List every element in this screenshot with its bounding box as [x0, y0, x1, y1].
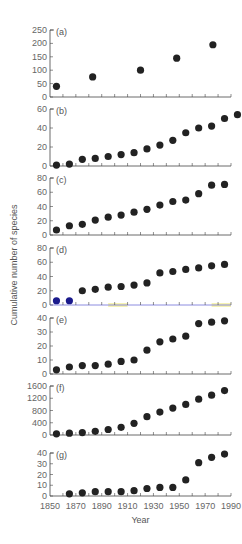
data-point [156, 142, 163, 149]
y-tick-label: 0 [42, 491, 47, 501]
y-tick-label: 0 [42, 300, 47, 310]
data-point [195, 190, 202, 197]
data-point [66, 297, 73, 304]
y-tick-label: 40 [37, 448, 47, 458]
data-point [79, 489, 86, 496]
y-tick-label: 1600 [27, 381, 47, 391]
data-point [130, 420, 137, 427]
data-point [143, 485, 150, 492]
data-point [182, 129, 189, 136]
data-point [182, 476, 189, 483]
y-tick-label: 20 [37, 341, 47, 351]
y-tick-label: 0 [42, 230, 47, 240]
y-tick-label: 800 [32, 406, 47, 416]
data-point [143, 413, 150, 420]
panel-label: (f) [56, 383, 65, 393]
data-point [156, 201, 163, 208]
data-point [221, 115, 228, 122]
data-point [105, 214, 112, 221]
data-point [53, 366, 60, 373]
data-point [118, 488, 125, 495]
y-tick-label: 50 [37, 79, 47, 89]
data-point [79, 221, 86, 228]
data-point [130, 487, 137, 494]
data-point [169, 137, 176, 144]
panel-label: (c) [56, 175, 67, 185]
x-tick-label: 1890 [92, 501, 112, 511]
data-point [79, 287, 86, 294]
data-point [105, 284, 112, 291]
y-tick-label: 20 [37, 286, 47, 296]
data-point [182, 401, 189, 408]
panel-label: (a) [56, 27, 67, 37]
y-tick-label: 60 [37, 187, 47, 197]
data-point [209, 41, 216, 48]
data-point [89, 73, 96, 80]
data-point [169, 335, 176, 342]
y-tick-label: 60 [37, 104, 47, 114]
data-point [143, 279, 150, 286]
data-point [118, 283, 125, 290]
panel-d: 020406080(d) [37, 243, 231, 310]
data-point [208, 454, 215, 461]
x-axis-title: Year [131, 515, 149, 525]
data-point [53, 430, 60, 437]
data-point [92, 428, 99, 435]
x-tick-label: 1990 [221, 501, 241, 511]
data-point [66, 222, 73, 229]
panel-a: 050100150200250(a) [32, 25, 231, 102]
data-point [118, 424, 125, 431]
y-tick-label: 250 [32, 25, 47, 35]
data-point [169, 268, 176, 275]
y-tick-label: 40 [37, 313, 47, 323]
data-point [79, 429, 86, 436]
data-point [92, 286, 99, 293]
data-point [234, 111, 241, 118]
data-point [92, 216, 99, 223]
y-axis-title: Cumulative number of species [9, 204, 19, 326]
data-point [195, 459, 202, 466]
data-point [208, 182, 215, 189]
data-point [53, 297, 60, 304]
y-tick-label: 80 [37, 243, 47, 253]
panel-c: 020406080(c) [37, 173, 231, 240]
data-point [208, 319, 215, 326]
data-point [169, 404, 176, 411]
y-tick-label: 10 [37, 355, 47, 365]
panel-b: 0204060(b) [37, 104, 241, 171]
data-point [208, 392, 215, 399]
data-point [221, 450, 228, 457]
data-point [173, 55, 180, 62]
data-point [118, 151, 125, 158]
y-tick-label: 20 [37, 470, 47, 480]
y-tick-label: 40 [37, 202, 47, 212]
data-point [143, 206, 150, 213]
data-point [221, 261, 228, 268]
panel-label: (g) [56, 450, 67, 460]
data-point [182, 333, 189, 340]
data-point [221, 317, 228, 324]
data-point [221, 181, 228, 188]
y-tick-label: 40 [37, 123, 47, 133]
data-point [182, 196, 189, 203]
data-point [105, 361, 112, 368]
data-point [143, 347, 150, 354]
data-point [66, 363, 73, 370]
panel-g: 010203040(g) [37, 448, 231, 501]
data-point [130, 356, 137, 363]
data-point [156, 484, 163, 491]
y-tick-label: 80 [37, 173, 47, 183]
panel-label: (e) [56, 315, 67, 325]
data-point [66, 490, 73, 497]
y-tick-label: 400 [32, 418, 47, 428]
data-point [130, 149, 137, 156]
data-point [156, 338, 163, 345]
species-accumulation-chart: 050100150200250(a)0204060(b)020406080(c)… [0, 0, 242, 544]
x-tick-label: 1930 [143, 501, 163, 511]
y-tick-label: 0 [42, 161, 47, 171]
data-point [79, 156, 86, 163]
panel-e: 010203040(e) [37, 313, 231, 379]
y-tick-label: 20 [37, 216, 47, 226]
data-point [92, 488, 99, 495]
y-tick-label: 30 [37, 327, 47, 337]
